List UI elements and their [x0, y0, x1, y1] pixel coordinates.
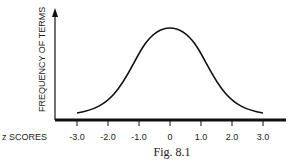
tick-label: 3.0 — [257, 132, 270, 142]
x-axis-label: z SCORES — [2, 132, 47, 142]
tick-label: -1.0 — [131, 132, 147, 142]
tick-label: 0 — [167, 132, 172, 142]
tick-label: -2.0 — [100, 132, 116, 142]
tick-label: 2.0 — [226, 132, 239, 142]
figure-caption: Fig. 8.1 — [153, 145, 190, 159]
tick-label: 1.0 — [195, 132, 208, 142]
normal-distribution-chart: FREQUENCY OF TERMS z SCORES -3.0 -2.0 -1… — [0, 0, 294, 166]
y-axis-arrow-icon — [52, 8, 58, 17]
y-axis-label: FREQUENCY OF TERMS — [37, 7, 47, 112]
normal-curve — [77, 28, 263, 113]
tick-label: -3.0 — [69, 132, 85, 142]
